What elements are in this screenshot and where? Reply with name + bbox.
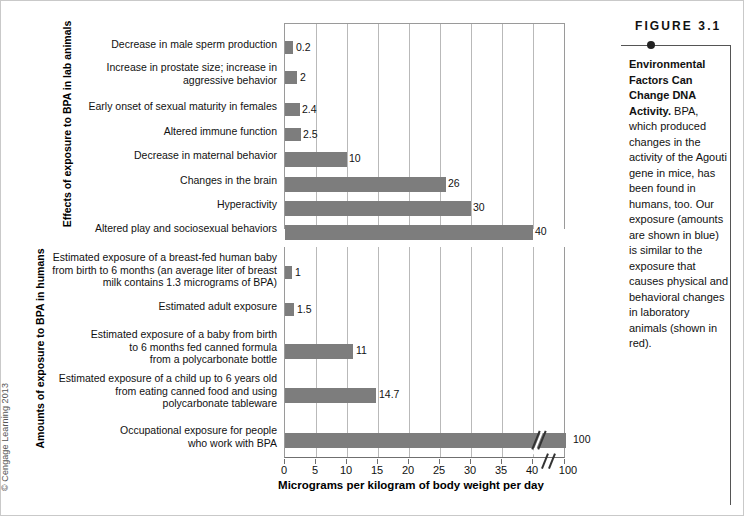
category-label-2: Early onset of sexual maturity in female… bbox=[77, 100, 277, 113]
bar-child-canned-food bbox=[285, 388, 376, 403]
category-label-4: Decrease in maternal behavior bbox=[77, 149, 277, 162]
tick-label-5: 5 bbox=[300, 464, 330, 476]
category-label-6: Hyperactivity bbox=[77, 198, 277, 211]
bar-decrease-maternal-behavior bbox=[285, 152, 347, 167]
plot-region-bottom bbox=[284, 247, 565, 458]
category-label-1: Estimated adult exposure bbox=[77, 300, 277, 313]
value-label-3: 2.5 bbox=[303, 128, 318, 141]
panel-humans: 1 1.5 11 14.7 100 Estimated exposure of … bbox=[1, 241, 601, 471]
bar-decrease-male-sperm-production bbox=[285, 41, 293, 54]
value-label-6: 30 bbox=[473, 201, 485, 214]
value-label-7: 40 bbox=[535, 225, 547, 238]
value-label-0: 1 bbox=[295, 266, 301, 279]
gridline-30 bbox=[471, 247, 472, 457]
gridline-25 bbox=[440, 24, 441, 229]
bar-hyperactivity bbox=[285, 201, 471, 216]
gridline-35 bbox=[502, 24, 503, 229]
gridline-30 bbox=[471, 24, 472, 229]
figure-caption-text: Environmental Factors Can Change DNA Act… bbox=[629, 57, 729, 352]
plot-region-top bbox=[284, 23, 565, 229]
tick-label-35: 35 bbox=[486, 464, 516, 476]
gridline-5 bbox=[316, 24, 317, 229]
value-label-4: 10 bbox=[349, 152, 361, 165]
category-label-7: Altered play and sociosexual behaviors bbox=[47, 222, 277, 235]
value-label-1: 1.5 bbox=[297, 303, 312, 316]
category-label-3: Estimated exposure of a child up to 6 ye… bbox=[37, 372, 277, 410]
category-label-5: Changes in the brain bbox=[77, 174, 277, 187]
tick-label-100: 100 bbox=[553, 464, 583, 476]
value-label-3: 14.7 bbox=[379, 388, 399, 401]
bar-altered-immune-function bbox=[285, 128, 301, 141]
gridline-40 bbox=[533, 24, 534, 229]
bar-breastfed-baby-exposure bbox=[285, 266, 292, 279]
tick-label-40: 40 bbox=[517, 464, 547, 476]
value-label-0: 0.2 bbox=[296, 41, 311, 54]
tick-label-0: 0 bbox=[269, 464, 299, 476]
panel-lab-animals: 0.2 2 2.4 2.5 10 26 30 40 Decrease in ma… bbox=[1, 9, 601, 239]
value-label-4: 100 bbox=[573, 433, 591, 446]
gridline-20 bbox=[409, 247, 410, 457]
gridline-25 bbox=[440, 247, 441, 457]
tick-label-30: 30 bbox=[455, 464, 485, 476]
bar-adult-exposure bbox=[285, 303, 294, 316]
tick-label-20: 20 bbox=[393, 464, 423, 476]
x-axis-title: Micrograms per kilogram of body weight p… bbox=[201, 479, 621, 491]
category-label-0: Estimated exposure of a breast-fed human… bbox=[47, 251, 277, 289]
figure-caption-column: FIGURE 3.1 Environmental Factors Can Cha… bbox=[621, 1, 744, 516]
caption-body: BPA, which produced changes in the activ… bbox=[629, 105, 728, 350]
gridline-15 bbox=[378, 247, 379, 457]
value-label-5: 26 bbox=[448, 177, 460, 190]
gridline-15 bbox=[378, 24, 379, 229]
value-label-2: 2.4 bbox=[302, 103, 317, 116]
category-label-3: Altered immune function bbox=[77, 125, 277, 138]
figure-page: © Cengage Learning 2013 Effects of expos… bbox=[0, 0, 744, 516]
chart-area: 0.2 2 2.4 2.5 10 26 30 40 Decrease in ma… bbox=[1, 1, 601, 516]
bar-canned-formula-baby bbox=[285, 344, 353, 359]
gridline-35 bbox=[502, 247, 503, 457]
category-label-0: Decrease in male sperm production bbox=[77, 38, 277, 51]
tick-label-10: 10 bbox=[331, 464, 361, 476]
bar-changes-in-the-brain bbox=[285, 177, 446, 192]
bar-altered-play-sociosexual bbox=[285, 225, 533, 240]
gridline-20 bbox=[409, 24, 410, 229]
tick-label-15: 15 bbox=[362, 464, 392, 476]
bar-increase-prostate-size bbox=[285, 71, 297, 84]
figure-number-label: FIGURE 3.1 bbox=[635, 19, 721, 33]
category-label-1: Increase in prostate size; increase in a… bbox=[77, 61, 277, 86]
tick-label-25: 25 bbox=[424, 464, 454, 476]
category-label-2: Estimated exposure of a baby from birth … bbox=[67, 328, 277, 366]
bar-occupational-exposure bbox=[285, 433, 566, 448]
category-label-4: Occupational exposure for people who wor… bbox=[67, 424, 277, 449]
gridline-10 bbox=[347, 24, 348, 229]
gridline-40 bbox=[533, 247, 534, 457]
value-label-2: 11 bbox=[356, 344, 367, 357]
bar-early-sexual-maturity bbox=[285, 103, 300, 116]
value-label-1: 2 bbox=[300, 71, 306, 84]
